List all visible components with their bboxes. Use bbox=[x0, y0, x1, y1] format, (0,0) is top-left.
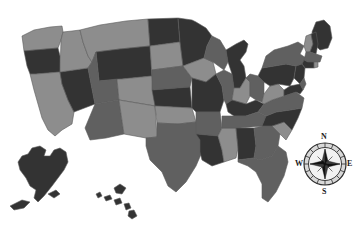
compass-label-north: N bbox=[321, 133, 327, 141]
compass-label-east: E bbox=[347, 160, 352, 168]
state-ND[interactable] bbox=[148, 18, 180, 46]
state-AR[interactable] bbox=[196, 112, 222, 136]
compass-hub bbox=[323, 162, 326, 165]
state-OR[interactable] bbox=[24, 48, 60, 74]
inset-hawaii[interactable] bbox=[96, 184, 137, 219]
state-KS[interactable] bbox=[152, 87, 192, 108]
state-RI[interactable] bbox=[314, 62, 318, 68]
state-AL[interactable] bbox=[236, 128, 256, 160]
state-WA[interactable] bbox=[22, 26, 63, 51]
compass-label-west: W bbox=[295, 160, 303, 168]
state-WY[interactable] bbox=[96, 46, 152, 81]
state-MA[interactable] bbox=[304, 52, 322, 62]
state-OK[interactable] bbox=[155, 106, 196, 124]
map-canvas: N W E S bbox=[0, 0, 360, 225]
compass-rose bbox=[300, 136, 350, 192]
state-NM[interactable] bbox=[119, 100, 157, 138]
compass-label-south: S bbox=[322, 188, 326, 196]
state-AZ[interactable] bbox=[85, 100, 124, 140]
state-NY[interactable] bbox=[262, 42, 306, 68]
inset-alaska[interactable] bbox=[10, 146, 68, 210]
